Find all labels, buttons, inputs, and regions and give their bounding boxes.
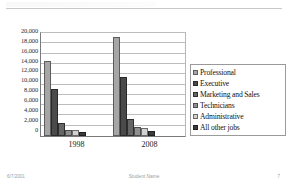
x-axis-category-label: 2008 bbox=[113, 140, 186, 154]
bar[interactable] bbox=[141, 128, 148, 136]
legend-swatch-icon bbox=[193, 114, 198, 119]
bar[interactable] bbox=[113, 37, 120, 136]
bar-group bbox=[113, 33, 182, 136]
bar[interactable] bbox=[44, 61, 51, 136]
y-axis-tick-label: 6,000 bbox=[24, 97, 38, 103]
bar-group bbox=[44, 33, 113, 136]
x-axis-category-label: 1998 bbox=[40, 140, 113, 154]
legend-swatch-icon bbox=[193, 125, 198, 130]
bar[interactable] bbox=[79, 132, 86, 136]
legend-swatch-icon bbox=[193, 81, 198, 86]
legend-item-label: Executive bbox=[200, 79, 229, 88]
plot-area bbox=[40, 32, 186, 137]
y-axis-tick-label: 10,000 bbox=[21, 77, 38, 83]
y-axis: 20,00018,00016,00014,00012,00010,0008,00… bbox=[4, 31, 38, 136]
legend-item[interactable]: Administrative bbox=[193, 111, 283, 122]
footer-name: Student Name bbox=[0, 173, 288, 181]
slide-header-rule bbox=[6, 8, 282, 9]
legend-item[interactable]: Marketing and Sales bbox=[193, 89, 283, 100]
y-axis-tick-label: 20,000 bbox=[21, 28, 38, 34]
legend-item[interactable]: Technicians bbox=[193, 100, 283, 111]
bar[interactable] bbox=[148, 131, 155, 136]
y-axis-tick-label: 8,000 bbox=[24, 87, 38, 93]
legend-item[interactable]: All other jobs bbox=[193, 122, 283, 133]
bars-layer bbox=[41, 33, 185, 136]
chart-legend[interactable]: ProfessionalExecutiveMarketing and Sales… bbox=[190, 64, 286, 136]
x-axis: 19982008 bbox=[40, 140, 186, 154]
bar[interactable] bbox=[72, 130, 79, 136]
legend-item-label: Professional bbox=[200, 68, 236, 77]
y-axis-tick-label: 16,000 bbox=[21, 48, 38, 54]
legend-item[interactable]: Professional bbox=[193, 67, 283, 78]
y-axis-tick-label: 0 bbox=[35, 127, 38, 133]
y-axis-tick-label: 14,000 bbox=[21, 58, 38, 64]
bar[interactable] bbox=[134, 127, 141, 136]
y-axis-tick-label: 18,000 bbox=[21, 38, 38, 44]
legend-item-label: Technicians bbox=[200, 101, 235, 110]
legend-swatch-icon bbox=[193, 70, 198, 75]
bar[interactable] bbox=[120, 77, 127, 136]
legend-swatch-icon bbox=[193, 103, 198, 108]
bar[interactable] bbox=[127, 119, 134, 137]
legend-item[interactable]: Executive bbox=[193, 78, 283, 89]
slide-footer: 6/7/2001 Student Name 7 bbox=[0, 173, 288, 183]
bar[interactable] bbox=[58, 123, 65, 136]
legend-item-label: Administrative bbox=[200, 112, 243, 121]
bar[interactable] bbox=[65, 130, 72, 136]
bar-chart[interactable]: 20,00018,00016,00014,00012,00010,0008,00… bbox=[4, 14, 284, 154]
y-axis-tick-label: 2,000 bbox=[24, 117, 38, 123]
bar[interactable] bbox=[51, 89, 58, 136]
y-axis-tick-label: 12,000 bbox=[21, 67, 38, 73]
legend-item-label: All other jobs bbox=[200, 123, 240, 132]
legend-swatch-icon bbox=[193, 92, 198, 97]
legend-item-label: Marketing and Sales bbox=[200, 90, 260, 99]
y-axis-tick-label: 4,000 bbox=[24, 107, 38, 113]
footer-page-number: 7 bbox=[277, 173, 280, 181]
slide-header-smudge bbox=[6, 2, 156, 7]
